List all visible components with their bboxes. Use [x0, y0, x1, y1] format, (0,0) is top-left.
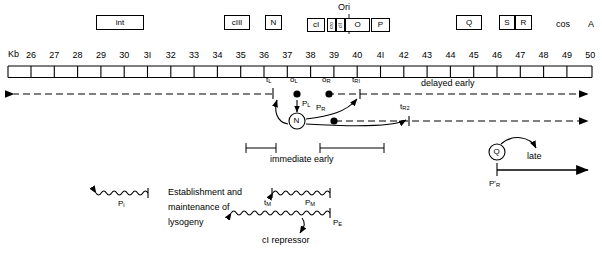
tL-label: tL: [266, 76, 271, 85]
diagram-canvas: int cIII N cI cro cII O P Q S R Ori cos …: [0, 0, 602, 255]
tR1-label: tRI: [352, 76, 360, 85]
gene-box-cI[interactable]: cI: [307, 18, 325, 32]
gene-box-cIII-label: cIII: [232, 19, 243, 27]
ruler-tick-47: 47: [508, 50, 532, 60]
gene-box-Q-label: Q: [466, 19, 472, 27]
N-antitermination-to-tR1: [306, 99, 357, 119]
oR-site-dot: [325, 90, 332, 97]
ruler-tick-33: 33: [182, 50, 206, 60]
gene-box-cIII[interactable]: cIII: [224, 15, 250, 30]
cI-repressor-label: cI repressor: [262, 236, 310, 245]
gene-box-N[interactable]: N: [265, 15, 282, 30]
pL-label: PL: [302, 100, 311, 109]
ruler-tick-37: 37: [275, 50, 299, 60]
gene-box-S[interactable]: S: [499, 15, 515, 30]
ruler-tick-30: 30: [112, 50, 136, 60]
ruler-tick-39: 39: [322, 50, 346, 60]
gene-box-cro-label: cro: [329, 22, 334, 29]
ruler-tick-4I: 4I: [369, 50, 393, 60]
gene-box-O[interactable]: O: [345, 18, 370, 32]
gene-box-P[interactable]: P: [371, 18, 390, 32]
kb-unit-label: Kb: [8, 50, 19, 59]
ruler-tick-34: 34: [205, 50, 229, 60]
ruler-tick-50: 50: [578, 50, 602, 60]
oR-label: oR: [322, 76, 331, 85]
ruler-tick-44: 44: [438, 50, 462, 60]
kb-ruler: [8, 66, 592, 78]
ruler-tick-42: 42: [392, 50, 416, 60]
gene-box-R[interactable]: R: [515, 15, 532, 30]
tR2-label: tR2: [400, 103, 410, 112]
ruler-tick-28: 28: [66, 50, 90, 60]
late-label: late: [527, 152, 542, 161]
ruler-tick-48: 48: [532, 50, 556, 60]
ruler-tick-36: 36: [252, 50, 276, 60]
ruler-tick-38: 38: [299, 50, 323, 60]
pRprime-label: P'R: [489, 180, 500, 189]
gene-box-S-label: S: [504, 19, 509, 27]
oL-site-dot: [293, 90, 300, 97]
pM-transcript: [272, 188, 330, 198]
ruler-ticks: [31, 66, 567, 78]
gene-box-N-label: N: [271, 19, 277, 27]
pE-label: PE: [333, 219, 342, 228]
Q-protein-label: Q: [494, 148, 500, 156]
ruler-tick-26: 26: [19, 50, 43, 60]
N-protein-label: N: [294, 117, 300, 125]
tM-label: tM: [264, 199, 271, 208]
N-antitermination-to-tL: [276, 100, 288, 124]
ruler-tick-29: 29: [89, 50, 113, 60]
gene-box-P-label: P: [378, 21, 383, 29]
pI-label: Pi: [118, 200, 125, 209]
delayed-early-label: delayed early: [421, 79, 475, 88]
gene-box-int-label: int: [116, 19, 124, 27]
ruler-tick-32: 32: [159, 50, 183, 60]
gene-box-O-label: O: [354, 21, 360, 29]
pR-site-dot: [330, 117, 337, 124]
A-label: A: [588, 20, 594, 29]
lysogeny-text-line1: Establishment and: [168, 188, 242, 197]
ruler-tick-49: 49: [555, 50, 579, 60]
immediate-early-label: immediate early: [270, 155, 334, 164]
ruler-tick-45: 45: [462, 50, 486, 60]
gene-box-cI-label: cI: [313, 21, 319, 29]
lysogeny-text-line2: maintenance of: [168, 203, 230, 212]
gene-box-int[interactable]: int: [96, 15, 144, 30]
pR-label: PR: [316, 104, 326, 113]
ruler-tick-3I: 3I: [136, 50, 160, 60]
pM-label: PM: [305, 199, 315, 208]
lysogeny-text-line3: lysogeny: [168, 218, 204, 227]
diagram-vector-layer: [0, 0, 602, 255]
oL-label: oL: [290, 76, 298, 85]
gene-box-Q[interactable]: Q: [456, 15, 482, 30]
ruler-tick-40: 40: [345, 50, 369, 60]
gene-box-cII-label: cII: [338, 22, 343, 27]
pI-transcript: [96, 188, 148, 198]
gene-box-cII[interactable]: cII: [336, 18, 345, 32]
gene-box-cro[interactable]: cro: [327, 18, 336, 32]
ori-label: Ori: [338, 3, 350, 12]
Q-antitermination-arrow: [501, 138, 536, 148]
cI-repressor-arrow: [300, 218, 304, 233]
ruler-tick-27: 27: [42, 50, 66, 60]
ruler-tick-43: 43: [415, 50, 439, 60]
ruler-tick-35: 35: [229, 50, 253, 60]
ruler-tick-46: 46: [485, 50, 509, 60]
cos-label: cos: [556, 20, 570, 29]
gene-box-R-label: R: [521, 19, 527, 27]
pE-transcript: [231, 208, 330, 218]
immediate-early-bracket: [246, 143, 384, 153]
